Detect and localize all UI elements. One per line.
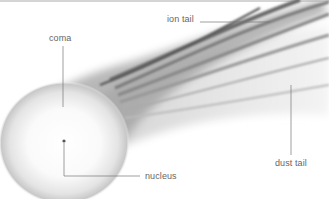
comet-diagram: coma ion tail nucleus dust tail — [0, 0, 329, 199]
ion-tail-label: ion tail — [167, 14, 194, 24]
nucleus-label: nucleus — [145, 171, 177, 181]
coma-label: coma — [49, 33, 71, 43]
comet-illustration — [0, 0, 329, 199]
dust-tail-label: dust tail — [275, 158, 307, 168]
nucleus-dot — [62, 139, 65, 142]
